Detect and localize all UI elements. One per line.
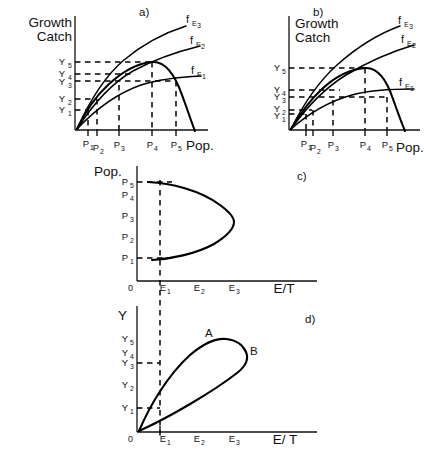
svg-text:5: 5 <box>130 339 134 346</box>
svg-text:P: P <box>382 139 388 150</box>
panel-c-equilibrium-curve <box>148 182 234 260</box>
svg-text:4: 4 <box>154 145 158 152</box>
svg-text:2: 2 <box>282 109 286 116</box>
svg-text:5: 5 <box>130 182 134 189</box>
panel-c-ytick-p4: P 4 <box>122 189 134 202</box>
svg-text:Y: Y <box>59 56 66 67</box>
panel-b-fe2-label: f E 2 <box>401 33 416 50</box>
svg-text:f: f <box>186 13 190 25</box>
svg-text:2: 2 <box>201 439 205 446</box>
panel-c-origin: 0 <box>128 283 133 293</box>
svg-text:P: P <box>122 252 128 263</box>
svg-text:Y: Y <box>274 62 281 73</box>
svg-text:E: E <box>194 433 200 444</box>
panel-a-fe3-label: f E 3 <box>186 13 201 30</box>
panel-c-xtick-e2: E 2 <box>194 282 205 295</box>
panel-c-xlabel: E/T <box>273 281 294 296</box>
panel-b-xtick-p3: P 3 <box>328 139 339 152</box>
panel-d-xtick-e3: E 3 <box>229 433 240 446</box>
svg-text:3: 3 <box>121 145 125 152</box>
svg-text:5: 5 <box>178 145 182 152</box>
svg-text:5: 5 <box>68 62 72 69</box>
panel-d-xtick-e1: E 1 <box>160 433 171 446</box>
svg-text:Y: Y <box>122 379 129 390</box>
svg-text:3: 3 <box>282 97 286 104</box>
panel-a-ylabel-line1: Growth <box>28 15 72 30</box>
panel-b-ylabel-line1: Growth <box>295 16 339 31</box>
svg-text:2: 2 <box>130 237 134 244</box>
panel-b-ylabel-line2: Catch <box>295 30 330 45</box>
panel-a-xtick-p3: P 3 <box>114 139 125 152</box>
svg-text:Y: Y <box>122 333 129 344</box>
svg-text:3: 3 <box>68 82 72 89</box>
figure-canvas: a) Growth Catch f E 3 <box>0 0 424 456</box>
panel-c-xtick-e1: E 1 <box>160 282 171 295</box>
svg-text:1: 1 <box>202 72 206 81</box>
panel-d-origin: 0 <box>128 434 133 444</box>
svg-text:P: P <box>122 231 128 242</box>
panel-b-ytick-y5: Y 5 <box>274 62 286 75</box>
svg-text:Y: Y <box>59 104 66 115</box>
svg-text:4: 4 <box>367 145 371 152</box>
svg-text:E: E <box>229 433 235 444</box>
svg-text:f: f <box>399 76 403 88</box>
panel-b-xtick-p4: P 4 <box>360 139 371 152</box>
panel-c-ytick-p2: P 2 <box>122 231 134 244</box>
svg-text:P: P <box>360 139 366 150</box>
svg-text:P: P <box>147 139 153 150</box>
svg-text:3: 3 <box>130 363 134 370</box>
panel-d-lower-branch <box>139 352 247 431</box>
panel-d: d) Y A B Y 5 Y 4 Y 3 Y 2 Y <box>118 300 317 447</box>
svg-text:f: f <box>191 64 195 76</box>
svg-text:3: 3 <box>236 439 240 446</box>
svg-text:2: 2 <box>100 148 104 155</box>
panel-a-xtick-p2: P 2 <box>93 142 104 155</box>
svg-text:2: 2 <box>317 148 321 155</box>
panel-d-ytick-y5: Y 5 <box>122 333 134 346</box>
svg-text:2: 2 <box>201 42 205 51</box>
svg-text:Y: Y <box>122 357 129 368</box>
svg-text:P: P <box>328 139 334 150</box>
svg-text:P: P <box>301 138 307 149</box>
svg-text:5: 5 <box>282 68 286 75</box>
svg-text:E: E <box>160 433 166 444</box>
svg-text:P: P <box>122 210 128 221</box>
svg-text:P: P <box>171 139 177 150</box>
svg-text:f: f <box>401 33 405 45</box>
svg-text:3: 3 <box>197 21 201 30</box>
panel-a-xlabel: Pop. <box>186 138 214 153</box>
panel-d-ytick-y2: Y 2 <box>122 379 134 392</box>
svg-text:4: 4 <box>130 195 134 202</box>
svg-text:3: 3 <box>130 216 134 223</box>
panel-c-ylabel: Pop. <box>94 164 122 179</box>
panel-c-ytick-p3: P 3 <box>122 210 134 223</box>
svg-text:3: 3 <box>236 288 240 295</box>
svg-text:1: 1 <box>167 439 171 446</box>
svg-text:1: 1 <box>68 110 72 117</box>
svg-text:3: 3 <box>409 22 413 31</box>
svg-text:1: 1 <box>130 258 134 265</box>
panel-b: b) Growth Catch f E 3 f E <box>274 6 424 155</box>
svg-text:P: P <box>122 176 128 187</box>
svg-text:5: 5 <box>389 145 393 152</box>
svg-text:P: P <box>83 138 89 149</box>
svg-text:1: 1 <box>282 116 286 123</box>
panel-c-ytick-p1: P 1 <box>122 252 134 265</box>
panel-a-label: a) <box>139 6 149 18</box>
svg-text:1: 1 <box>130 408 134 415</box>
svg-text:2: 2 <box>68 99 72 106</box>
svg-text:4: 4 <box>68 74 72 81</box>
panel-b-fe1-label: f E 1 <box>399 76 414 93</box>
panel-c-label: c) <box>297 170 307 182</box>
svg-text:P: P <box>310 142 316 153</box>
svg-text:f: f <box>190 34 194 46</box>
svg-text:Y: Y <box>122 402 129 413</box>
panel-b-xtick-p2: P 2 <box>310 142 321 155</box>
svg-text:4: 4 <box>130 353 134 360</box>
panel-a-xtick-p5: P 5 <box>171 139 182 152</box>
panel-a-ylabel-line2: Catch <box>37 29 72 44</box>
svg-text:Y: Y <box>59 76 66 87</box>
panel-d-point-a: A <box>205 327 213 339</box>
svg-text:2: 2 <box>130 385 134 392</box>
svg-text:1: 1 <box>410 84 414 93</box>
